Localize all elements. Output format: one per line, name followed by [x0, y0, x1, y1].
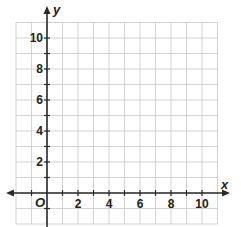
x-axis-arrow-left-icon: [6, 190, 14, 197]
y-tick-label: 2: [36, 155, 43, 169]
y-tick-label: 10: [30, 31, 44, 45]
coordinate-plane: 246810246810 x y O: [0, 0, 241, 227]
x-tick-label: 10: [195, 197, 209, 211]
y-tick-label: 6: [36, 93, 43, 107]
x-tick-label: 6: [137, 197, 144, 211]
tick-marks: [32, 38, 203, 209]
y-axis-arrow-up-icon: [44, 6, 51, 14]
x-axis-label: x: [220, 177, 229, 192]
x-tick-label: 4: [106, 197, 113, 211]
tick-labels: 246810246810: [30, 31, 209, 211]
x-tick-label: 8: [168, 197, 175, 211]
x-tick-label: 2: [75, 197, 82, 211]
y-axis-label: y: [52, 2, 61, 17]
origin-label: O: [35, 195, 45, 210]
y-tick-label: 4: [36, 124, 43, 138]
y-tick-label: 8: [36, 62, 43, 76]
